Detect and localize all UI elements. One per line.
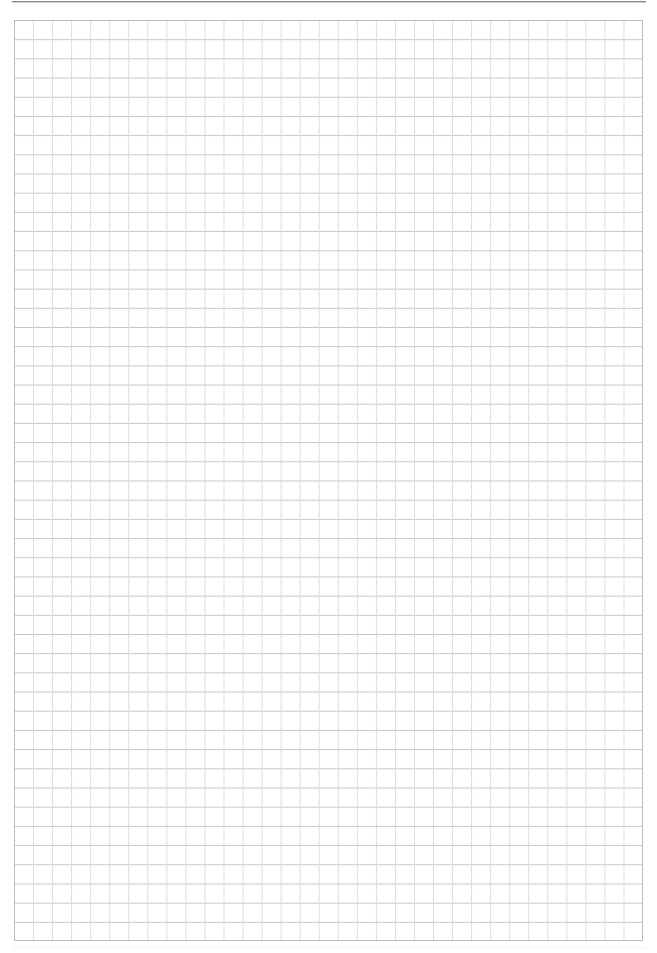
footer-band [12, 945, 646, 949]
header-rule-shadow [12, 2, 646, 3]
graph-paper-grid [14, 20, 643, 941]
